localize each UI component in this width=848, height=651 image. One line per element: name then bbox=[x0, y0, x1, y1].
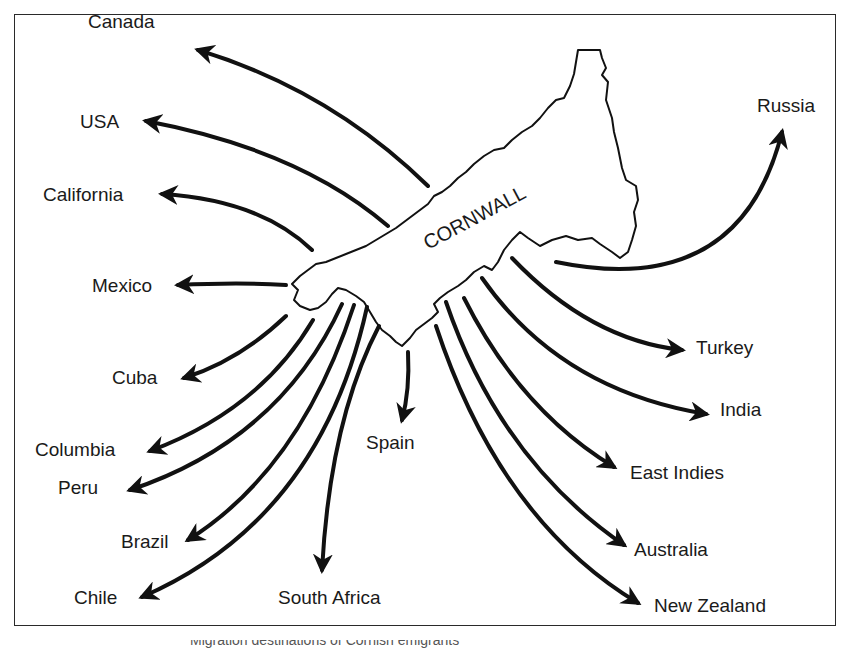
label-east-indies: East Indies bbox=[630, 463, 724, 482]
migration-map: CORNWALL bbox=[0, 0, 848, 651]
label-chile: Chile bbox=[74, 588, 117, 607]
figure-caption: Migration destinations of Cornish emigra… bbox=[190, 640, 670, 651]
label-brazil: Brazil bbox=[121, 532, 169, 551]
label-india: India bbox=[720, 400, 761, 419]
arrow-mexico bbox=[178, 284, 286, 286]
label-australia: Australia bbox=[634, 540, 708, 559]
arrow-chile bbox=[142, 307, 367, 597]
arrow-california bbox=[162, 194, 312, 250]
arrow-peru bbox=[130, 304, 342, 490]
arrow-turkey bbox=[512, 258, 682, 350]
label-usa: USA bbox=[80, 112, 119, 131]
arrow-cuba bbox=[184, 316, 286, 378]
arrow-usa bbox=[146, 121, 388, 226]
arrow-canada bbox=[198, 50, 428, 186]
label-peru: Peru bbox=[58, 478, 98, 497]
arrow-india bbox=[482, 278, 706, 414]
label-california: California bbox=[43, 185, 123, 204]
caption-text: Migration destinations of Cornish emigra… bbox=[190, 640, 670, 648]
arrow-spain bbox=[402, 352, 408, 420]
label-columbia: Columbia bbox=[35, 440, 115, 459]
label-spain: Spain bbox=[366, 433, 415, 452]
label-mexico: Mexico bbox=[92, 276, 152, 295]
label-turkey: Turkey bbox=[696, 338, 753, 357]
label-cuba: Cuba bbox=[112, 368, 157, 387]
label-canada: Canada bbox=[88, 12, 155, 31]
label-south-africa: South Africa bbox=[278, 588, 380, 607]
label-new-zealand: New Zealand bbox=[654, 596, 766, 615]
label-russia: Russia bbox=[757, 96, 815, 115]
